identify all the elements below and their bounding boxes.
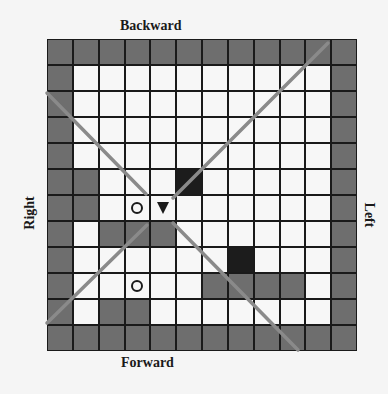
free-cell [203,66,227,90]
free-cell [306,170,330,194]
free-cell [306,300,330,324]
wall-cell [100,300,124,324]
free-cell [203,144,227,168]
free-cell [281,170,305,194]
wall-cell [48,326,72,350]
free-cell [126,66,150,90]
wall-cell [332,92,356,116]
free-cell [126,170,150,194]
wall-cell [203,326,227,350]
free-cell [100,196,124,220]
free-cell [281,196,305,220]
free-cell [151,92,175,116]
wall-cell [48,66,72,90]
wall-cell [229,274,253,298]
free-cell [229,144,253,168]
wall-cell [48,274,72,298]
left-label: Left [361,203,377,228]
free-cell [203,300,227,324]
obstacle-cell [177,170,201,194]
free-cell [306,92,330,116]
wall-cell [48,300,72,324]
free-cell [74,92,98,116]
free-cell [255,144,279,168]
free-cell [100,144,124,168]
marker-cell [126,274,150,298]
free-cell [255,300,279,324]
wall-cell [281,40,305,64]
wall-cell [332,66,356,90]
free-cell [203,222,227,246]
free-cell [229,118,253,142]
free-cell [177,300,201,324]
agent-cell [151,196,175,220]
free-cell [74,66,98,90]
wall-cell [48,40,72,64]
obstacle-cell [229,248,253,272]
wall-cell [332,248,356,272]
free-cell [255,92,279,116]
free-cell [177,66,201,90]
free-cell [151,118,175,142]
forward-label: Forward [121,355,174,371]
wall-cell [332,196,356,220]
wall-cell [48,144,72,168]
free-cell [151,144,175,168]
free-cell [126,92,150,116]
free-cell [203,170,227,194]
wall-cell [74,170,98,194]
wall-cell [151,40,175,64]
free-cell [203,92,227,116]
free-cell [281,144,305,168]
wall-cell [229,326,253,350]
free-cell [74,222,98,246]
wall-cell [255,326,279,350]
free-cell [151,300,175,324]
wall-cell [332,118,356,142]
wall-cell [48,196,72,220]
free-cell [255,248,279,272]
wall-cell [48,170,72,194]
wall-cell [126,222,150,246]
free-cell [126,144,150,168]
wall-cell [255,274,279,298]
free-cell [281,300,305,324]
circle-marker-icon [131,280,143,292]
free-cell [74,144,98,168]
wall-cell [281,326,305,350]
wall-cell [100,222,124,246]
wall-cell [48,92,72,116]
free-cell [126,248,150,272]
free-cell [281,118,305,142]
free-cell [306,274,330,298]
free-cell [229,66,253,90]
free-cell [151,274,175,298]
free-cell [203,118,227,142]
free-cell [203,196,227,220]
wall-cell [74,196,98,220]
free-cell [306,222,330,246]
wall-cell [281,274,305,298]
free-cell [229,222,253,246]
free-cell [74,118,98,142]
wall-cell [332,326,356,350]
free-cell [255,170,279,194]
free-cell [177,144,201,168]
wall-cell [203,40,227,64]
free-cell [229,300,253,324]
free-cell [281,248,305,272]
wall-cell [48,118,72,142]
grid-map [47,39,357,351]
free-cell [151,66,175,90]
wall-cell [332,170,356,194]
free-cell [177,248,201,272]
free-cell [74,274,98,298]
free-cell [177,274,201,298]
free-cell [306,248,330,272]
wall-cell [177,40,201,64]
agent-triangle-icon [157,202,169,214]
free-cell [100,170,124,194]
free-cell [229,170,253,194]
free-cell [255,118,279,142]
wall-cell [332,222,356,246]
